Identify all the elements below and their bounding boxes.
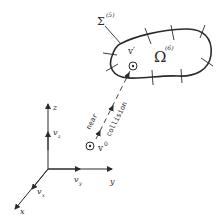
path-label-collision: collision bbox=[105, 100, 129, 137]
surface-label: Σ bbox=[97, 15, 105, 28]
velocity-space-diagram: Σ (5) Ω (6) v′ near collision v 0 z v z … bbox=[0, 0, 224, 224]
y-axis-label: y bbox=[109, 177, 115, 186]
vx-subscript: x bbox=[42, 192, 45, 198]
pre-collision-velocity-point bbox=[86, 142, 94, 150]
post-collision-velocity-point bbox=[129, 62, 137, 70]
vz-subscript: z bbox=[57, 133, 61, 139]
vy-subscript: y bbox=[78, 180, 82, 187]
surface-superscript: (5) bbox=[106, 11, 115, 18]
path-label-near: near bbox=[85, 112, 100, 131]
region-superscript: (6) bbox=[165, 44, 174, 51]
z-axis-label: z bbox=[52, 103, 58, 112]
post-collision-label: v′ bbox=[127, 46, 135, 56]
pre-collision-label: v bbox=[97, 143, 104, 153]
x-axis-label: x bbox=[20, 207, 25, 216]
pre-collision-superscript: 0 bbox=[104, 140, 108, 147]
